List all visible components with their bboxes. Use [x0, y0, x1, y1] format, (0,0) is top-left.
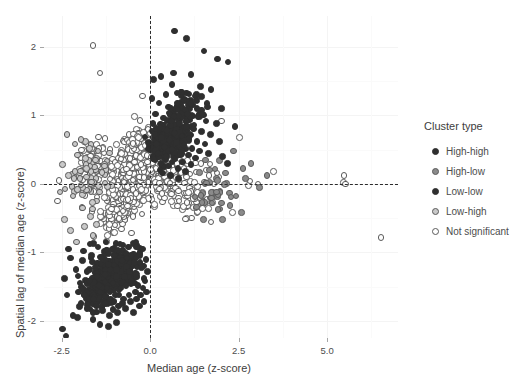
- scatter-point-low-high: [67, 227, 74, 234]
- scatter-point-high-low: [219, 216, 226, 223]
- scatter-point-high-high: [198, 128, 205, 135]
- scatter-point-low-low: [139, 246, 146, 253]
- scatter-point-low-low: [130, 309, 137, 316]
- scatter-point-not-significant: [137, 117, 144, 124]
- scatter-point-low-low: [125, 244, 132, 251]
- x-axis-tick-label-3: 5.0: [299, 345, 355, 356]
- scatter-point-high-high: [202, 141, 209, 148]
- reference-line-horizontal: [44, 184, 398, 185]
- scatter-point-low-low: [131, 259, 138, 266]
- scatter-point-low-low: [119, 300, 126, 307]
- legend-item-low-high[interactable]: Low-high: [424, 201, 531, 221]
- scatter-point-not-significant: [199, 205, 206, 212]
- scatter-point-not-significant: [102, 135, 109, 142]
- scatter-point-high-high: [175, 165, 182, 172]
- scatter-point-low-high: [73, 239, 80, 246]
- scatter-point-low-high: [89, 206, 96, 213]
- scatter-point-not-significant: [236, 134, 243, 141]
- legend-title: Cluster type: [424, 120, 531, 132]
- gridline-horizontal: [44, 47, 398, 48]
- scatter-point-high-high: [182, 168, 189, 175]
- gridline-vertical: [327, 16, 328, 338]
- legend-item-low-low[interactable]: Low-low: [424, 181, 531, 201]
- scatter-point-low-low: [80, 248, 87, 255]
- scatter-point-not-significant: [139, 93, 146, 100]
- scatter-point-high-low: [206, 167, 213, 174]
- gridline-horizontal: [44, 252, 398, 253]
- scatter-point-not-significant: [205, 205, 212, 212]
- scatter-point-high-high: [190, 126, 197, 133]
- scatter-point-low-low: [112, 292, 119, 299]
- scatter-point-low-high: [90, 232, 97, 239]
- legend-item-high-high[interactable]: High-high: [424, 141, 531, 161]
- scatter-point-not-significant: [125, 196, 132, 203]
- y-axis-tick-label-1: 1: [0, 109, 36, 120]
- y-axis-tick: [40, 115, 44, 116]
- legend-item-label: Low-high: [446, 206, 487, 217]
- gridline-horizontal: [44, 81, 398, 82]
- scatter-point-low-high: [92, 157, 99, 164]
- scatter-point-high-high: [150, 76, 157, 83]
- scatter-point-low-low: [95, 244, 102, 251]
- scatter-point-not-significant: [378, 234, 385, 241]
- x-axis-tick: [239, 338, 240, 342]
- scatter-point-high-high: [158, 134, 165, 141]
- scatter-point-high-low: [264, 172, 271, 179]
- scatter-point-low-low: [73, 266, 80, 273]
- scatter-point-not-significant: [139, 211, 146, 218]
- scatter-point-low-low: [93, 303, 100, 310]
- scatter-point-low-low: [102, 271, 109, 278]
- scatter-point-high-high: [173, 139, 180, 146]
- scatter-point-high-high: [208, 86, 215, 93]
- scatter-point-high-high: [169, 81, 176, 88]
- x-axis-tick-label-2: 2.5: [211, 345, 267, 356]
- scatter-point-not-significant: [270, 168, 277, 175]
- scatter-point-not-significant: [229, 209, 236, 216]
- scatter-point-high-low: [200, 216, 207, 223]
- scatter-point-low-low: [97, 321, 104, 328]
- scatter-point-low-low: [94, 273, 101, 280]
- scatter-point-low-low: [133, 271, 140, 278]
- scatter-point-low-low: [84, 268, 91, 275]
- scatter-point-low-high: [83, 165, 90, 172]
- scatter-point-high-high: [183, 35, 190, 42]
- x-axis-tick: [150, 338, 151, 342]
- scatter-point-not-significant: [54, 198, 61, 205]
- scatter-point-low-high: [101, 163, 108, 170]
- scatter-point-high-low: [193, 204, 200, 211]
- scatter-point-high-low: [238, 209, 245, 216]
- scatter-point-high-low: [240, 165, 247, 172]
- scatter-point-high-high: [175, 175, 182, 182]
- reference-line-vertical: [150, 16, 151, 338]
- scatter-point-low-low: [92, 264, 99, 271]
- gridline-horizontal: [44, 115, 398, 116]
- scatter-point-high-high: [204, 104, 211, 111]
- scatter-point-high-low: [215, 206, 222, 213]
- y-axis-tick-label-2: 0: [0, 178, 36, 189]
- scatter-point-high-high: [177, 149, 184, 156]
- legend-item-not-significant[interactable]: Not significant: [424, 221, 531, 241]
- scatter-point-high-high: [194, 138, 201, 145]
- scatter-point-high-high: [167, 172, 174, 179]
- scatter-point-low-high: [64, 131, 71, 138]
- scatter-point-high-high: [189, 145, 196, 152]
- scatter-point-high-high: [188, 161, 195, 168]
- scatter-point-low-low: [143, 289, 150, 296]
- scatter-point-not-significant: [138, 186, 145, 193]
- scatter-point-low-high: [89, 199, 96, 206]
- scatter-point-low-low: [75, 273, 82, 280]
- scatter-point-low-high: [87, 213, 94, 220]
- scatter-point-high-high: [219, 153, 226, 160]
- scatter-point-low-low: [59, 326, 66, 333]
- scatter-point-not-significant: [118, 226, 125, 233]
- scatter-point-low-low: [90, 296, 97, 303]
- scatter-point-low-low: [114, 309, 121, 316]
- scatter-point-high-high: [225, 59, 232, 66]
- scatter-point-low-low: [113, 266, 120, 273]
- scatter-point-not-significant: [123, 166, 130, 173]
- scatter-point-high-high: [197, 83, 204, 90]
- legend-item-label: Low-low: [446, 186, 483, 197]
- scatter-point-low-high: [59, 161, 66, 168]
- scatter-point-low-high: [99, 169, 106, 176]
- legend-item-high-low[interactable]: High-low: [424, 161, 531, 181]
